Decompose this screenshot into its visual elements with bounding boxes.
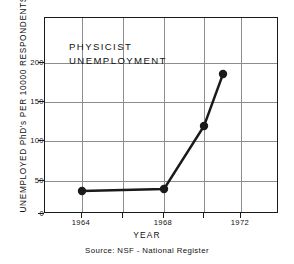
data-point-1968 bbox=[160, 185, 168, 193]
x-tick-label-1964: 1964 bbox=[61, 218, 101, 227]
x-tick-label-1972: 1972 bbox=[220, 218, 260, 227]
series-polyline bbox=[82, 74, 223, 191]
x-tick-mark-1966 bbox=[122, 213, 123, 218]
data-point-1971 bbox=[219, 70, 227, 78]
plot-area: PHYSICIST UNEMPLOYMENT bbox=[44, 17, 278, 213]
source-note: Source: NSF - National Register bbox=[0, 246, 294, 255]
chart-figure: UNEMPLOYED PhD's PER 10000 RESPONDENTS 0… bbox=[0, 0, 294, 264]
x-tick-mark-1970 bbox=[203, 213, 204, 218]
x-axis-title: YEAR bbox=[0, 230, 294, 240]
x-tick-label-1968: 1968 bbox=[143, 218, 183, 227]
y-tick-mark-0 bbox=[38, 213, 44, 214]
data-point-1970 bbox=[200, 122, 208, 130]
data-point-1964 bbox=[78, 187, 86, 195]
data-series-line bbox=[45, 18, 279, 214]
